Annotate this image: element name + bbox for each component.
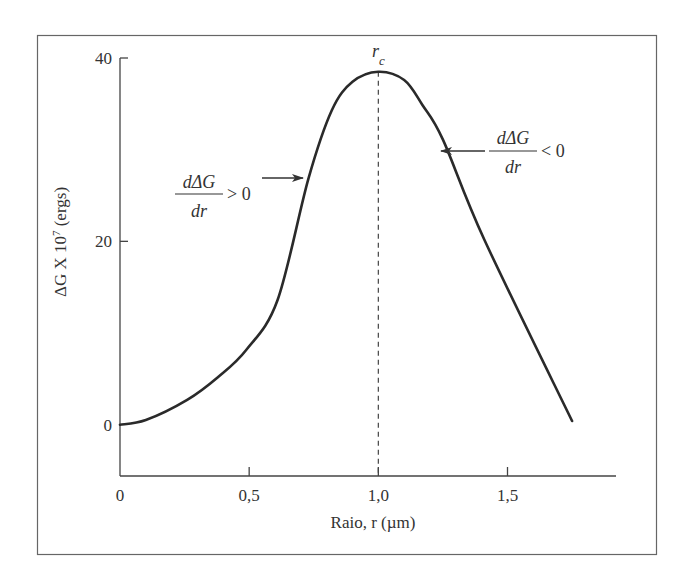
y-tick-label: 0 <box>104 416 113 435</box>
annotation-negative-relation: < 0 <box>541 141 565 161</box>
annotation-negative-numerator: dΔG <box>497 128 530 148</box>
series-line-delta-g <box>120 72 572 425</box>
critical-radius-subscript: c <box>379 53 385 68</box>
y-tick-label: 20 <box>95 232 112 251</box>
y-axis-title-main: ΔG X 10 <box>51 236 70 297</box>
y-axis-title: ΔG X 107 (ergs) <box>50 187 70 297</box>
critical-radius-label: rc <box>372 41 385 68</box>
x-tick-label: 1,5 <box>497 486 518 505</box>
chart: 02040 00,51,01,5 Raio, r (µm) ΔG X 107 (… <box>0 0 689 572</box>
annotation-positive-denominator: dr <box>191 201 208 221</box>
annotation-positive-slope: dΔG dr > 0 <box>175 172 303 221</box>
annotation-negative-slope: dΔG dr < 0 <box>441 128 565 177</box>
x-tick-label: 0,5 <box>239 486 260 505</box>
annotation-negative-denominator: dr <box>505 157 522 177</box>
annotation-positive-numerator: dΔG <box>183 172 216 192</box>
y-tick-label: 40 <box>95 49 112 68</box>
x-axis-title: Raio, r (µm) <box>331 513 416 532</box>
x-tick-label: 0 <box>116 486 125 505</box>
x-tick-label: 1,0 <box>368 486 389 505</box>
annotation-positive-relation: > 0 <box>227 184 251 204</box>
y-axis-title-unit: (ergs) <box>51 187 70 231</box>
